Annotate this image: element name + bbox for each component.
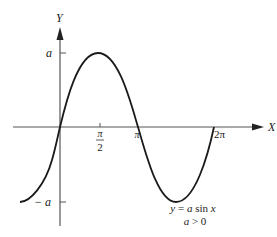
x-tick-label-2pi: 2π: [214, 128, 226, 140]
y-axis-label: Y: [56, 11, 64, 25]
x-axis-label: X: [267, 120, 276, 134]
y-tick-label-a: a: [46, 46, 52, 60]
sine-graph: X Y a − a π 2 π 2π y = a sin x a > 0 y =…: [0, 0, 277, 237]
x-tick-label-pi-over-2-num: π: [97, 128, 103, 139]
y-tick-label-neg-a: − a: [34, 195, 51, 209]
x-tick-label-pi-over-2-den: 2: [97, 141, 103, 153]
x-axis-arrow-icon: [252, 124, 264, 131]
equation-label: y = a sin x: [169, 202, 215, 214]
y-axis-arrow-icon: [57, 27, 64, 40]
condition-label: a > 0: [184, 215, 207, 227]
